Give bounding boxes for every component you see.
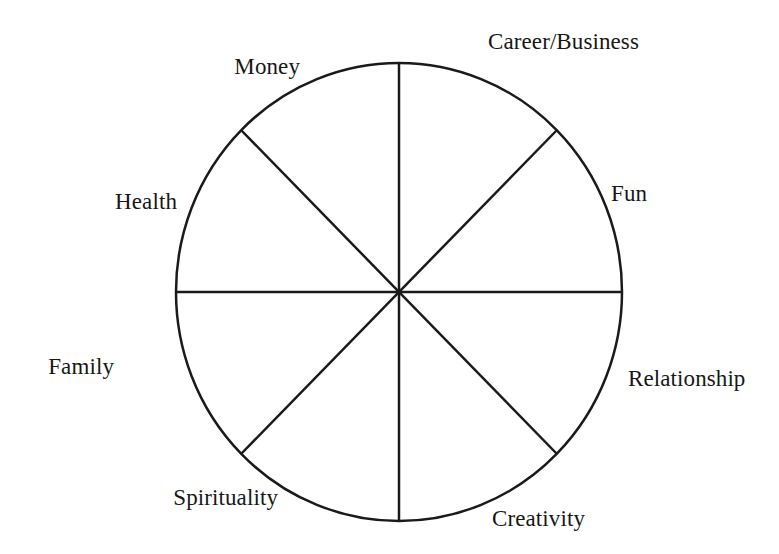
wheel-label-spirituality: Spirituality [173, 486, 278, 509]
wheel-label-relationship: Relationship [628, 367, 745, 390]
wheel-label-career-business: Career/Business [488, 30, 639, 53]
wheel-of-life-diagram: Career/Business Fun Relationship Creativ… [0, 0, 779, 554]
wheel-geometry [176, 63, 622, 521]
wheel-label-family: Family [48, 355, 114, 378]
wheel-label-fun: Fun [611, 182, 647, 205]
wheel-label-health: Health [115, 190, 177, 213]
wheel-graphic [0, 0, 779, 554]
wheel-label-creativity: Creativity [492, 507, 585, 530]
wheel-label-money: Money [234, 55, 300, 78]
